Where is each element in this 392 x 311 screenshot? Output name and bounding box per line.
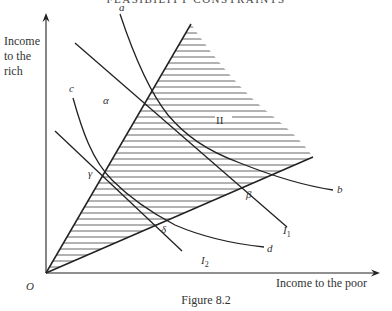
region-II-label: II [216, 114, 224, 126]
curve-ab [120, 14, 333, 190]
line-I1-label: I1 [282, 224, 291, 239]
point-gamma-label: γ [88, 167, 93, 179]
curve-c-label: c [69, 82, 74, 94]
feasibility-diagram: O a b c d I1 I2 α β γ δ II [0, 0, 392, 311]
point-delta-label: δ [161, 223, 167, 235]
x-axis-label: Income to the poor [276, 276, 367, 291]
figure-caption: Figure 8.2 [0, 293, 392, 308]
upper-ray [46, 24, 191, 273]
curve-a-label: a [119, 1, 125, 13]
curve-b-label: b [337, 183, 343, 195]
line-I1-label-sub: 1 [287, 230, 291, 239]
line-I2-label: I2 [200, 254, 209, 269]
curve-d-label: d [267, 242, 273, 254]
origin-label: O [26, 280, 34, 292]
axes [46, 18, 374, 273]
point-alpha-label: α [103, 94, 109, 106]
line-I2-label-sub: 2 [205, 260, 209, 269]
point-beta-label: β [245, 188, 252, 200]
